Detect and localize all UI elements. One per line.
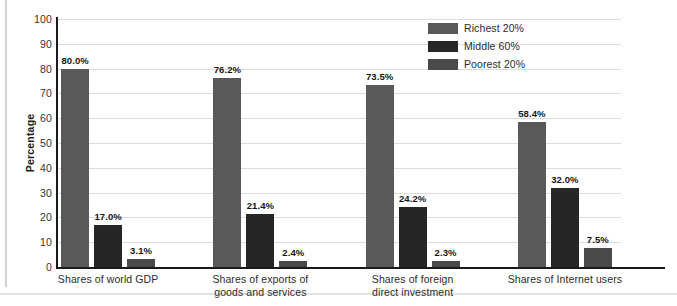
y-axis-tick-label: 70 bbox=[20, 87, 52, 99]
bar-rect bbox=[399, 207, 427, 267]
bar-value-label: 21.4% bbox=[247, 200, 274, 211]
x-axis-category-label-line: Shares of Internet users bbox=[478, 273, 652, 286]
y-axis-tick-label: 40 bbox=[20, 162, 52, 174]
y-axis-line bbox=[56, 17, 58, 269]
x-axis-line bbox=[56, 267, 665, 269]
bar-value-label: 32.0% bbox=[551, 174, 578, 185]
y-axis-ticks: 1009080706050403020100 bbox=[14, 19, 52, 267]
bar-rect bbox=[551, 188, 579, 267]
bar-value-label: 24.2% bbox=[399, 193, 426, 204]
plot-area: Percentage 80.0%17.0%3.1%76.2%21.4%2.4%7… bbox=[56, 19, 665, 267]
bar-value-label: 3.1% bbox=[130, 245, 152, 256]
x-axis-category-label-line: Shares of world GDP bbox=[21, 273, 195, 286]
x-axis-category-label: Shares of foreigndirect investment bbox=[326, 273, 500, 299]
chart-legend: Richest 20%Middle 60%Poorest 20% bbox=[428, 20, 525, 74]
legend-color-swatch bbox=[428, 41, 458, 52]
legend-item-label: Middle 60% bbox=[464, 40, 520, 52]
bar-value-label: 80.0% bbox=[61, 55, 88, 66]
x-axis-category-label-line: direct investment bbox=[326, 286, 500, 299]
x-axis-category-label: Shares of Internet users bbox=[478, 273, 652, 286]
y-axis-tick-label: 100 bbox=[20, 13, 52, 25]
bar-rect bbox=[61, 69, 89, 267]
bar-value-label: 2.3% bbox=[435, 247, 457, 258]
x-axis-category-label-line: goods and services bbox=[173, 286, 347, 299]
bar-group: 58.4%32.0%7.5% bbox=[518, 19, 612, 267]
legend-item[interactable]: Richest 20% bbox=[428, 20, 525, 36]
bar-value-label: 2.4% bbox=[282, 247, 304, 258]
legend-color-swatch bbox=[428, 59, 458, 70]
bar-rect bbox=[94, 225, 122, 267]
y-axis-tick-label: 30 bbox=[20, 187, 52, 199]
x-axis-category-label: Shares of exports ofgoods and services bbox=[173, 273, 347, 299]
legend-item-label: Richest 20% bbox=[464, 22, 524, 34]
legend-item-label: Poorest 20% bbox=[464, 58, 525, 70]
bar-group: 80.0%17.0%3.1% bbox=[61, 19, 155, 267]
x-axis-category-label-line: Shares of foreign bbox=[326, 273, 500, 286]
x-axis-category-label: Shares of world GDP bbox=[21, 273, 195, 286]
bar-rect bbox=[213, 78, 241, 267]
bar-rect bbox=[127, 259, 155, 267]
y-axis-tick-label: 80 bbox=[20, 63, 52, 75]
legend-item[interactable]: Middle 60% bbox=[428, 38, 525, 54]
y-axis-tick-label: 0 bbox=[20, 261, 52, 273]
y-axis-tick-label: 60 bbox=[20, 112, 52, 124]
y-axis-tick-label: 50 bbox=[20, 137, 52, 149]
bar-rect bbox=[518, 122, 546, 267]
bar-group: 76.2%21.4%2.4% bbox=[213, 19, 307, 267]
bar-value-label: 7.5% bbox=[587, 234, 609, 245]
y-axis-tick-label: 90 bbox=[20, 38, 52, 50]
y-axis-tick-label: 10 bbox=[20, 236, 52, 248]
x-axis-category-label-line: Shares of exports of bbox=[173, 273, 347, 286]
bar-rect bbox=[584, 248, 612, 267]
bar-groups: 80.0%17.0%3.1%76.2%21.4%2.4%73.5%24.2%2.… bbox=[56, 19, 665, 267]
bar-rect bbox=[366, 85, 394, 267]
bar-value-label: 76.2% bbox=[214, 64, 241, 75]
page-edge-rule-left bbox=[5, 0, 7, 287]
legend-color-swatch bbox=[428, 23, 458, 34]
y-axis-tick-label: 20 bbox=[20, 211, 52, 223]
chart-figure: Percentage 80.0%17.0%3.1%76.2%21.4%2.4%7… bbox=[0, 0, 677, 306]
bar-value-label: 17.0% bbox=[94, 211, 121, 222]
x-axis-category-labels: Shares of world GDPShares of exports ofg… bbox=[56, 273, 665, 306]
bar-value-label: 73.5% bbox=[366, 71, 393, 82]
legend-item[interactable]: Poorest 20% bbox=[428, 56, 525, 72]
bar-rect bbox=[246, 214, 274, 267]
bar-value-label: 58.4% bbox=[518, 108, 545, 119]
